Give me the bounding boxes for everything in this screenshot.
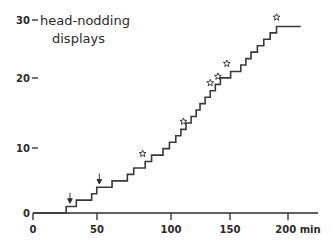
star-marker-icon <box>207 79 214 86</box>
x-tick-label-150: 150 <box>220 224 241 235</box>
chart-figure: head-nodding displays 30 20 10 0 0 50 10… <box>0 0 333 240</box>
chart-title-line-2: displays <box>52 31 105 46</box>
arrow-down-marker-icon <box>68 193 73 204</box>
cumulative-step-curve <box>33 26 301 213</box>
chart-title-line-1: head-nodding <box>40 13 130 28</box>
star-marker-icon <box>139 150 146 157</box>
x-axis: 0 50 100 150 200 min <box>30 213 321 235</box>
star-marker-icon <box>273 14 280 21</box>
y-tick-label-20: 20 <box>16 73 30 84</box>
y-tick-label-30: 30 <box>16 15 30 26</box>
y-tick-label-10: 10 <box>16 143 30 154</box>
star-marker-icon <box>223 60 230 67</box>
x-tick-label-50: 50 <box>90 224 104 235</box>
y-tick-label-0: 0 <box>23 208 30 219</box>
x-tick-label-0: 0 <box>30 224 37 235</box>
chart-canvas: head-nodding displays 30 20 10 0 0 50 10… <box>0 0 333 240</box>
arrow-down-marker-icon <box>97 173 102 184</box>
x-tick-label-100: 100 <box>161 224 182 235</box>
y-axis-ticks: 30 20 10 0 <box>16 15 38 219</box>
x-tick-label-200: 200 min <box>275 224 320 235</box>
chart-title: head-nodding displays <box>40 13 130 46</box>
